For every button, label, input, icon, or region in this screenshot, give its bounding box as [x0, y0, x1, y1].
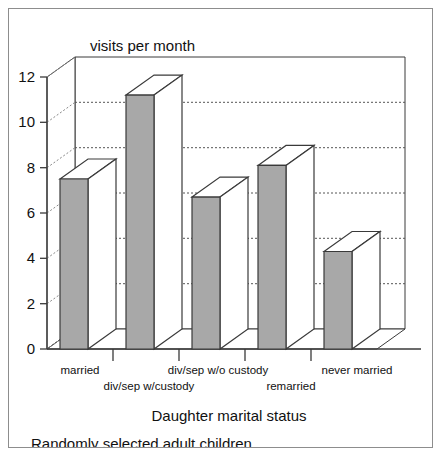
x-axis-ticks	[113, 349, 311, 361]
y-tick-label-0: 0	[27, 340, 35, 357]
x-axis-title: Daughter marital status	[151, 407, 306, 424]
chart-frame: 12 10 8 6 4 2 0	[8, 8, 433, 448]
bar-front-face	[258, 165, 286, 349]
y-tick-label-10: 10	[18, 113, 35, 130]
x-axis-category-labels: married div/sep w/custody div/sep w/o cu…	[61, 364, 393, 392]
bar-div-sep-wo-custody[interactable]	[192, 177, 248, 349]
bar-front-face	[126, 95, 154, 349]
bar-married[interactable]	[60, 159, 116, 349]
bar-side-face	[286, 145, 314, 349]
bar-front-face	[192, 197, 220, 349]
bar-side-face	[88, 159, 116, 349]
y-tick-label-12: 12	[18, 68, 35, 85]
chart-title: visits per month	[90, 37, 195, 54]
cat-label-never-married: never married	[322, 364, 393, 376]
bar-never-married[interactable]	[324, 232, 380, 350]
bar-side-face	[352, 232, 380, 350]
y-tick-label-8: 8	[27, 159, 35, 176]
cat-label-married: married	[61, 364, 100, 376]
bar-side-face	[220, 177, 248, 349]
y-axis: 12 10 8 6 4 2 0	[18, 68, 47, 357]
y-tick-label-4: 4	[27, 249, 35, 266]
y-tick-label-2: 2	[27, 295, 35, 312]
chart-caption: Randomly selected adult children	[31, 435, 252, 447]
y-axis-ticks	[40, 77, 47, 349]
x-axis	[47, 349, 421, 361]
bar-front-face	[324, 252, 352, 350]
bar-div-sep-w-custody[interactable]	[126, 75, 182, 349]
bar-front-face	[60, 179, 88, 349]
y-tick-label-6: 6	[27, 204, 35, 221]
cat-label-div-sep-wo-custody: div/sep w/o custody	[168, 364, 269, 376]
cat-label-div-sep-w-custody: div/sep w/custody	[104, 380, 195, 392]
bar-chart: 12 10 8 6 4 2 0	[9, 9, 432, 447]
bar-side-face	[154, 75, 182, 349]
bar-remarried[interactable]	[258, 145, 314, 349]
cat-label-remarried: remarried	[266, 380, 315, 392]
